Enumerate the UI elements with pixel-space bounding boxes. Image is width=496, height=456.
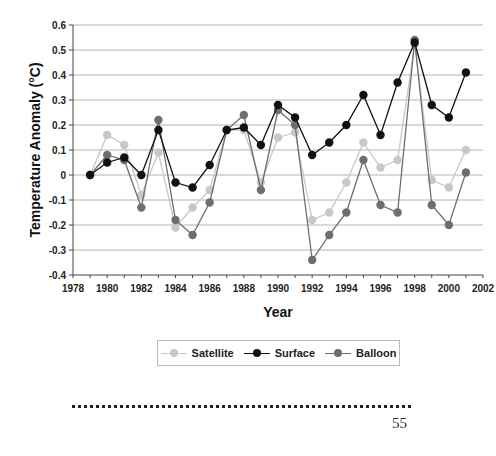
- y-tick-label: -0.1: [49, 195, 67, 206]
- y-tick-label: -0.3: [49, 245, 67, 256]
- data-point: [205, 198, 213, 206]
- data-point: [393, 208, 401, 216]
- data-point: [154, 116, 162, 124]
- x-tick-label: 1994: [335, 283, 358, 294]
- data-point: [205, 161, 213, 169]
- legend-item-balloon: Balloon: [325, 347, 396, 359]
- satellite-marker-icon: [161, 349, 187, 357]
- data-point: [257, 141, 265, 149]
- data-point: [137, 171, 145, 179]
- x-tick-label: 1980: [96, 283, 119, 294]
- data-point: [137, 203, 145, 211]
- x-axis-title: Year: [263, 304, 293, 320]
- y-tick-label: 0.4: [52, 70, 66, 81]
- data-point: [188, 231, 196, 239]
- data-point: [445, 221, 453, 229]
- data-point: [462, 146, 470, 154]
- chart-legend: Satellite Surface Balloon: [157, 340, 400, 366]
- data-point: [359, 138, 367, 146]
- y-tick-label: 0.3: [52, 95, 66, 106]
- legend-label: Balloon: [356, 347, 396, 359]
- data-point: [171, 178, 179, 186]
- data-point: [120, 141, 128, 149]
- data-point: [325, 208, 333, 216]
- data-point: [342, 208, 350, 216]
- data-point: [257, 186, 265, 194]
- data-point: [342, 178, 350, 186]
- legend-label: Satellite: [192, 347, 234, 359]
- data-point: [154, 148, 162, 156]
- data-point: [154, 126, 162, 134]
- y-tick-label: 0.5: [52, 45, 66, 56]
- x-tick-label: 1982: [130, 283, 153, 294]
- data-point: [462, 68, 470, 76]
- data-point: [171, 223, 179, 231]
- data-point: [86, 171, 94, 179]
- x-tick-label: 2000: [438, 283, 461, 294]
- surface-marker-icon: [244, 349, 270, 357]
- dotted-divider: [72, 405, 411, 408]
- data-point: [103, 158, 111, 166]
- data-point: [325, 231, 333, 239]
- data-point: [308, 216, 316, 224]
- data-point: [103, 151, 111, 159]
- balloon-marker-icon: [325, 349, 351, 357]
- data-point: [120, 153, 128, 161]
- series-line: [90, 43, 466, 188]
- data-point: [359, 91, 367, 99]
- data-point: [359, 156, 367, 164]
- data-point: [342, 121, 350, 129]
- data-point: [376, 163, 384, 171]
- x-tick-label: 1986: [199, 283, 222, 294]
- data-point: [393, 78, 401, 86]
- data-point: [188, 203, 196, 211]
- data-point: [171, 216, 179, 224]
- y-tick-label: -0.4: [49, 270, 67, 281]
- data-point: [274, 101, 282, 109]
- data-point: [462, 168, 470, 176]
- data-point: [308, 256, 316, 264]
- data-point: [445, 183, 453, 191]
- data-point: [240, 123, 248, 131]
- data-point: [376, 201, 384, 209]
- y-tick-label: -0.2: [49, 220, 67, 231]
- x-tick-label: 2002: [472, 283, 495, 294]
- x-tick-label: 1998: [404, 283, 427, 294]
- legend-item-surface: Surface: [244, 347, 315, 359]
- y-tick-label: 0.1: [52, 145, 66, 156]
- x-tick-label: 1984: [164, 283, 187, 294]
- legend-label: Surface: [275, 347, 315, 359]
- data-point: [393, 156, 401, 164]
- y-tick-label: 0.6: [52, 20, 66, 31]
- data-point: [103, 131, 111, 139]
- data-point: [188, 183, 196, 191]
- data-point: [308, 151, 316, 159]
- y-tick-label: 0.2: [52, 120, 66, 131]
- y-tick-label: 0: [60, 170, 66, 181]
- data-point: [291, 113, 299, 121]
- y-axis: 0.60.50.40.30.20.10-0.1-0.2-0.3-0.4: [49, 20, 73, 281]
- data-point: [428, 101, 436, 109]
- y-axis-title: Temperature Anomaly (°C): [27, 62, 43, 237]
- data-point: [274, 133, 282, 141]
- x-tick-label: 1996: [369, 283, 392, 294]
- x-tick-label: 1988: [233, 283, 256, 294]
- x-tick-label: 1978: [62, 283, 85, 294]
- x-axis: 1978198019821984198619881990199219941996…: [62, 275, 495, 294]
- data-point: [428, 201, 436, 209]
- page-number: 55: [392, 415, 407, 432]
- data-point: [325, 138, 333, 146]
- data-point: [410, 38, 418, 46]
- line-chart: 0.60.50.40.30.20.10-0.1-0.2-0.3-0.4 1978…: [0, 0, 496, 330]
- x-tick-label: 1990: [267, 283, 290, 294]
- legend-item-satellite: Satellite: [161, 347, 234, 359]
- series-satellite: [86, 41, 470, 232]
- data-point: [240, 111, 248, 119]
- data-point: [376, 131, 384, 139]
- x-tick-label: 1992: [301, 283, 324, 294]
- data-point: [445, 113, 453, 121]
- data-point: [223, 126, 231, 134]
